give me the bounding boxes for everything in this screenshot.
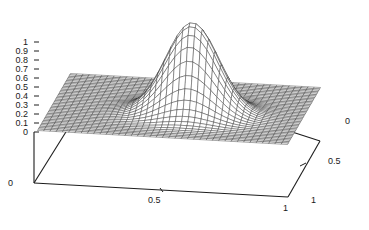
y-axis-label-max: 1 (311, 196, 316, 205)
z-axis-ticks (34, 42, 39, 132)
left-riser-line (34, 127, 69, 183)
y-axis-line (288, 141, 320, 197)
y-axis-label-mid: 0.5 (328, 157, 341, 166)
surface-plot-figure: 10.90.80.70.60.50.40.30.20.10 0 0.5 1 0 … (0, 0, 369, 230)
surface-mesh (38, 23, 321, 145)
x-axis-label-max: 1 (283, 204, 288, 213)
y-axis-label-0: 0 (345, 117, 350, 126)
x-axis-label-0: 0 (8, 179, 13, 188)
x-axis-label-mid: 0.5 (148, 196, 161, 205)
y-axis-tick-mid (300, 163, 306, 166)
z-axis-label-0: 0 (6, 128, 28, 137)
